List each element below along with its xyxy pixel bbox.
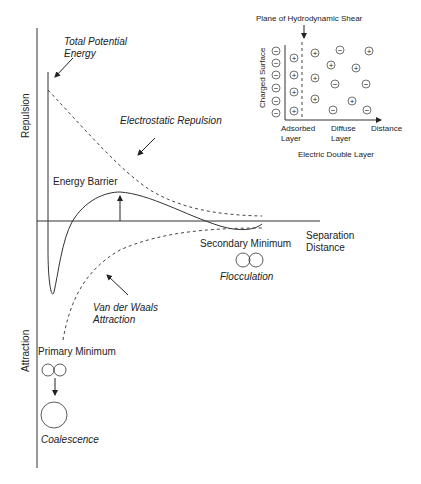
total-energy-label-2: Energy [64,48,96,60]
adsorbed-ions: + + + + [290,54,298,116]
inset-diffuse-2: Layer [331,134,351,144]
svg-text:−: − [338,46,343,55]
inset-caption: Electric Double Layer [298,150,374,160]
flocculation-particle-1 [236,253,250,267]
vdw-label-2: Attraction [93,314,135,326]
svg-text:+: + [367,47,372,56]
inset-adsorbed-1: Adsorbed [281,124,315,134]
svg-text:−: − [365,106,370,115]
flocculation-particle-2 [249,253,263,267]
svg-text:−: − [274,71,279,80]
total-energy-arrow [55,58,73,77]
energy-barrier-label: Energy Barrier [53,176,117,188]
flocculation-label: Flocculation [220,271,273,283]
inset-title: Plane of Hydrodynamic Shear [256,14,362,24]
svg-text:−: − [274,97,279,106]
x-axis-label-2: Distance [306,242,345,254]
svg-text:+: + [292,71,297,80]
svg-text:−: − [274,59,279,68]
svg-text:+: + [350,97,355,106]
electrostatic-label: Electrostatic Repulsion [120,115,222,127]
vdw-label-1: Van der Waals [93,302,158,314]
svg-text:+: + [292,88,297,97]
primary-min-particle-2 [54,364,66,376]
svg-text:+: + [292,54,297,63]
svg-text:−: − [364,80,369,89]
svg-text:−: − [333,80,338,89]
y-axis-attraction-label: Attraction [20,330,32,372]
secondary-minimum-label: Secondary Minimum [200,238,291,250]
diffuse-ions: + − + + + + − − + + − − [311,46,373,115]
svg-text:−: − [274,84,279,93]
inset-adsorbed-2: Layer [281,134,301,144]
svg-text:+: + [354,64,359,73]
coalescence-particle [41,402,67,428]
svg-text:+: + [329,61,334,70]
x-axis-label-1: Separation [306,230,354,242]
primary-minimum-label: Primary Minimum [38,346,116,358]
svg-text:−: − [274,47,279,56]
surface-charges: − − − − − − [272,47,280,118]
electrostatic-repulsion-curve [48,90,262,216]
inset-x-label: Distance [371,124,402,134]
inset-diffuse-1: Diffuse [331,124,356,134]
svg-text:+: + [313,49,318,58]
y-axis-repulsion-label: Repulsion [20,94,32,138]
svg-text:−: − [274,109,279,118]
svg-text:+: + [292,107,297,116]
electrostatic-arrow [138,138,155,155]
svg-text:−: − [331,106,336,115]
total-energy-label-1: Total Potential [64,36,127,48]
svg-text:+: + [313,74,318,83]
svg-text:+: + [313,95,318,104]
inset-y-label: Charged Surface [258,48,268,108]
vdw-arrow [107,275,128,295]
primary-min-particle-1 [42,364,54,376]
coalescence-label: Coalescence [41,434,99,446]
